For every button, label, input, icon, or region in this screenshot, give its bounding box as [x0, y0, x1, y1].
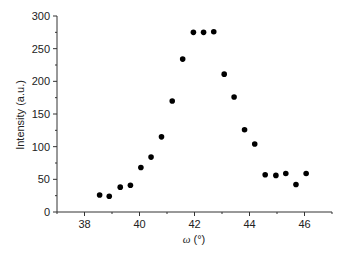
- x-tick-label: 38: [78, 218, 90, 230]
- x-axis-label-unit: (°): [191, 233, 206, 245]
- data-point: [273, 173, 279, 179]
- data-point: [201, 30, 207, 36]
- data-point: [191, 30, 197, 36]
- data-point: [293, 182, 299, 188]
- x-axis-label: ω (°): [183, 233, 206, 245]
- y-tick-label: 100: [32, 141, 50, 153]
- data-points: [97, 29, 309, 199]
- x-tick-label: 42: [188, 218, 200, 230]
- data-point: [262, 172, 268, 178]
- data-point: [231, 94, 237, 100]
- data-point: [106, 194, 112, 200]
- x-tick-label: 40: [133, 218, 145, 230]
- x-tick-label: 44: [243, 218, 255, 230]
- data-point: [221, 71, 227, 77]
- y-tick-label: 200: [32, 75, 50, 87]
- data-point: [159, 134, 165, 140]
- data-point: [242, 127, 248, 133]
- y-tick-label: 0: [44, 206, 50, 218]
- x-tick-label: 46: [298, 218, 310, 230]
- data-point: [303, 171, 309, 177]
- data-point: [117, 184, 123, 190]
- y-axis-label: Intensity (a.u.): [14, 80, 26, 150]
- data-point: [148, 154, 154, 160]
- y-tick-label: 150: [32, 108, 50, 120]
- data-point: [97, 192, 103, 198]
- data-point: [169, 98, 175, 104]
- y-tick-label: 250: [32, 43, 50, 55]
- y-tick-label: 50: [38, 173, 50, 185]
- data-point: [211, 29, 217, 35]
- data-point: [180, 56, 186, 62]
- y-tick-label: 300: [32, 10, 50, 22]
- y-axis: 050100150200250300: [32, 10, 57, 218]
- scatter-chart: 050100150200250300 3840424446 Intensity …: [0, 0, 346, 261]
- data-point: [283, 171, 289, 177]
- data-point: [128, 182, 134, 188]
- data-point: [252, 141, 258, 147]
- x-axis: 3840424446: [57, 212, 332, 230]
- data-point: [138, 165, 144, 171]
